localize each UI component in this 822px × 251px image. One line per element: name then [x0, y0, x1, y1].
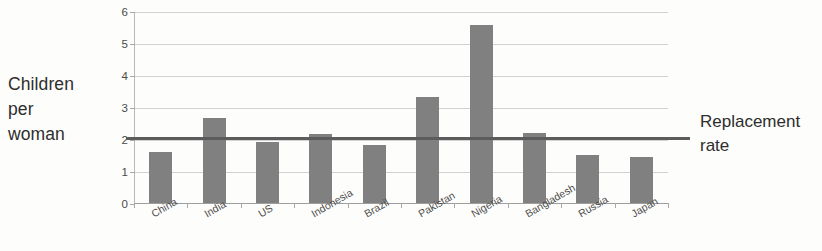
bar: [416, 97, 439, 203]
bar: [470, 25, 493, 203]
bar: [523, 133, 546, 203]
gridline: [134, 12, 668, 13]
y-tick-label: 6: [112, 6, 128, 18]
y-tick-mark: [130, 44, 135, 45]
y-tick-mark: [130, 140, 135, 141]
bar: [363, 145, 386, 203]
y-axis-title-line-3: woman: [8, 122, 108, 147]
gridline: [134, 76, 668, 77]
y-axis-title: Children per woman: [8, 72, 108, 147]
bar: [203, 118, 226, 203]
fertility-rate-bar-chart: Children per woman 0123456 ChinaIndiaUSI…: [0, 0, 822, 251]
plot-area: 0123456: [134, 12, 668, 204]
bar: [149, 152, 172, 203]
y-axis-title-line-2: per: [8, 97, 108, 122]
bar: [309, 134, 332, 203]
x-axis-label: US: [256, 202, 275, 220]
y-tick-mark: [130, 172, 135, 173]
y-axis-title-line-1: Children: [8, 72, 108, 97]
y-tick-label: 1: [112, 166, 128, 178]
gridline: [134, 44, 668, 45]
y-tick-label: 3: [112, 102, 128, 114]
y-tick-label: 0: [112, 198, 128, 210]
x-tick-mark: [668, 203, 669, 208]
x-axis-category-labels: ChinaIndiaUSIndonesiaBrazilPakistanNiger…: [134, 205, 668, 251]
y-tick-mark: [130, 108, 135, 109]
bar: [256, 142, 279, 203]
replacement-rate-line: [126, 137, 690, 140]
y-tick-mark: [130, 12, 135, 13]
replacement-annotation-line-1: Replacement: [700, 110, 818, 134]
y-tick-mark: [130, 76, 135, 77]
gridline: [134, 108, 668, 109]
replacement-rate-annotation: Replacement rate: [700, 110, 818, 158]
y-tick-label: 4: [112, 70, 128, 82]
bar: [576, 155, 599, 203]
replacement-annotation-line-2: rate: [700, 134, 818, 158]
y-tick-label: 5: [112, 38, 128, 50]
y-tick-label: 2: [112, 134, 128, 146]
